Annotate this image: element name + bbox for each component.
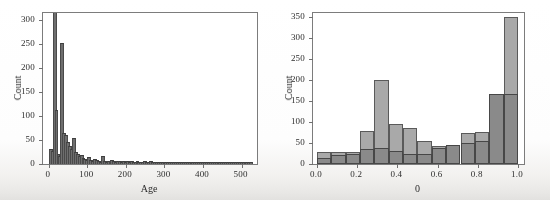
panel-theta-histogram: 050100150200250300350 0.00.20.40.60.81.0… [275,0,550,200]
x-axis-title-right: 0 [415,183,420,194]
y-ticklabel: 250 [0,38,35,48]
x-ticklabel: 0.6 [431,169,443,179]
y-ticklabel: 100 [0,110,35,120]
x-ticklabel: 200 [118,169,132,179]
x-ticklabel: 1.0 [511,169,523,179]
y-ticklabel: 350 [275,11,305,21]
bar-dark [317,158,331,164]
y-tick [39,164,43,165]
y-tick [39,140,43,141]
bar-dark [446,145,460,164]
y-ticklabel: 250 [275,53,305,63]
figure-page: 050100150200250300 0100200300400500 Age … [0,0,550,200]
y-tick [39,68,43,69]
bars-age [43,13,257,164]
bar-dark [475,141,489,164]
y-ticklabel: 300 [275,32,305,42]
plot-area-right [313,13,524,164]
x-ticklabel: 0 [45,169,50,179]
y-tick [309,143,313,144]
y-tick [39,92,43,93]
x-tick [49,164,50,168]
x-ticklabel: 0.8 [471,169,483,179]
y-axis-title-right: Count [283,75,294,99]
x-tick [397,164,398,168]
x-tick [164,164,165,168]
x-ticklabel: 300 [156,169,170,179]
x-tick [518,164,519,168]
panel-age-histogram: 050100150200250300 0100200300400500 Age … [0,0,275,200]
bars-theta-dark-series [313,13,524,164]
y-ticklabel: 0 [0,158,35,168]
x-tick [317,164,318,168]
y-tick [39,116,43,117]
x-tick [87,164,88,168]
x-ticklabel: 400 [195,169,209,179]
x-ticklabel: 0.0 [310,169,322,179]
bar-dark [360,149,374,164]
x-ticklabel: 0.4 [390,169,402,179]
y-tick [309,164,313,165]
x-tick [203,164,204,168]
y-tick [309,101,313,102]
y-tick [39,20,43,21]
bar-dark [403,154,417,164]
bar-dark [489,94,503,164]
bar-dark [346,154,360,164]
bar-dark [417,154,431,164]
x-tick [357,164,358,168]
bar-dark [432,148,446,164]
y-ticklabel: 200 [0,62,35,72]
y-axis-title-left: Count [12,75,23,99]
bar [249,162,253,164]
y-tick [309,122,313,123]
bar-dark [461,143,475,164]
x-ticklabel: 500 [234,169,248,179]
y-ticklabel: 300 [0,14,35,24]
y-ticklabel: 0 [275,158,305,168]
plot-area-left [43,13,257,164]
x-tick [242,164,243,168]
x-ticklabel: 100 [79,169,93,179]
plot-frame-left [42,12,258,165]
bar-dark [504,94,518,164]
bar-dark [331,155,345,164]
x-tick [438,164,439,168]
bar-dark [374,148,388,164]
x-ticklabel: 0.2 [350,169,362,179]
y-tick [309,59,313,60]
y-tick [309,80,313,81]
bar-dark [389,151,403,164]
y-tick [309,38,313,39]
y-ticklabel: 50 [275,137,305,147]
x-tick [126,164,127,168]
y-tick [39,44,43,45]
plot-frame-right [312,12,525,165]
x-axis-title-left: Age [141,183,158,194]
y-tick [309,17,313,18]
x-tick [478,164,479,168]
y-ticklabel: 50 [0,134,35,144]
y-ticklabel: 100 [275,116,305,126]
